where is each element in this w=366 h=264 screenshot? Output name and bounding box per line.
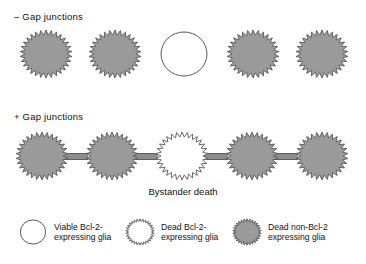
legend-label-2-line2: expressing glia bbox=[268, 232, 328, 243]
bystander-death-figure: – Gap junctions + Gap junctions Bystande… bbox=[0, 0, 366, 264]
glia-cell-no-gap-2-viable-bcl2 bbox=[156, 28, 212, 80]
glia-cell-no-gap-1-dead-non-bcl2 bbox=[87, 28, 143, 80]
glia-cell-with-gap-1-dead-non-bcl2 bbox=[84, 130, 140, 182]
legend-label-1-line1: Dead Bcl-2- bbox=[161, 222, 218, 233]
bystander-death-caption: Bystander death bbox=[0, 186, 366, 197]
legend-label-1: Dead Bcl-2-expressing glia bbox=[161, 222, 218, 243]
legend-label-0-line1: Viable Bcl-2- bbox=[54, 222, 111, 233]
spiky-gray-circle-icon bbox=[232, 218, 262, 246]
glia-cell-with-gap-3-dead-non-bcl2 bbox=[224, 130, 280, 182]
legend-entry-2: Dead non-Bcl-2expressing glia bbox=[232, 218, 328, 246]
glia-cell-no-gap-0-dead-non-bcl2 bbox=[18, 28, 74, 80]
smooth-white-circle-icon bbox=[18, 218, 48, 246]
glia-cell-with-gap-2-dead-bcl2 bbox=[154, 130, 210, 182]
row-label-no-gap-junctions: – Gap junctions bbox=[14, 11, 83, 22]
legend: Viable Bcl-2-expressing gliaDead Bcl-2-e… bbox=[0, 218, 366, 258]
glia-cell-with-gap-0-dead-non-bcl2 bbox=[14, 130, 70, 182]
legend-entry-1: Dead Bcl-2-expressing glia bbox=[125, 218, 218, 246]
cell-row-no-gap-junctions bbox=[0, 26, 366, 82]
glia-cell-with-gap-4-dead-non-bcl2 bbox=[294, 130, 350, 182]
glia-cell-no-gap-4-dead-non-bcl2 bbox=[294, 28, 350, 80]
cell-row-with-gap-junctions bbox=[0, 128, 366, 184]
legend-label-0: Viable Bcl-2-expressing glia bbox=[54, 222, 111, 243]
row-label-with-gap-junctions: + Gap junctions bbox=[14, 111, 83, 122]
glia-cell-no-gap-3-dead-non-bcl2 bbox=[225, 28, 281, 80]
legend-label-2-line1: Dead non-Bcl-2 bbox=[268, 222, 328, 233]
spiky-white-circle-icon bbox=[125, 218, 155, 246]
legend-label-0-line2: expressing glia bbox=[54, 232, 111, 243]
legend-entry-0: Viable Bcl-2-expressing glia bbox=[18, 218, 111, 246]
legend-label-2: Dead non-Bcl-2expressing glia bbox=[268, 222, 328, 243]
legend-label-1-line2: expressing glia bbox=[161, 232, 218, 243]
